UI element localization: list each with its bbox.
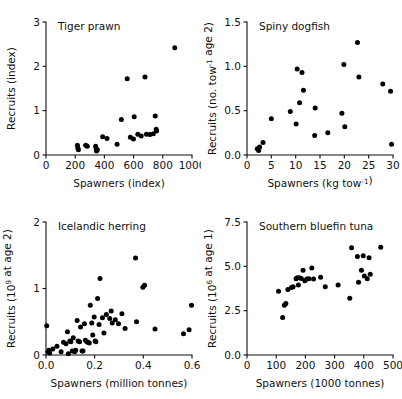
data-point [323,284,328,289]
data-point [336,282,341,287]
data-point [132,114,137,119]
data-point [347,296,352,301]
data-point [88,303,93,308]
data-point [50,347,55,352]
data-point [107,316,112,321]
data-point [97,322,102,327]
data-point [283,301,288,306]
data-point [76,147,81,152]
data-point [104,312,109,317]
data-point [269,116,274,121]
data-point [299,70,304,75]
data-point [368,272,373,277]
data-point [105,136,110,141]
x-tick-label: 10 [289,159,302,171]
data-point [257,145,262,150]
data-point [100,315,105,320]
data-point [291,284,296,289]
x-tick-label: 0.4 [135,359,152,371]
x-axis-title: Spawners (kg tow-1) [267,174,372,189]
data-point [92,315,97,320]
y-axis-title: Recruits (no. tow-1 age 2) [202,22,217,155]
data-point [365,276,370,281]
data-point [125,76,130,81]
y-tick-label: 1 [33,282,40,294]
x-tick-label: 0 [244,159,251,171]
data-point [73,348,78,353]
data-point [142,283,147,288]
y-tick-label: 1 [33,104,40,116]
data-point [261,140,266,145]
data-point [44,323,49,328]
data-point [276,289,281,294]
data-point [389,142,394,147]
axis-spines [247,22,393,155]
x-tick-label: 5 [268,159,275,171]
x-axis-title: Spawners (million tonnes) [51,377,188,389]
data-point [154,129,159,134]
x-axis-title: Spawners (1000 tonnes) [256,377,385,389]
data-point [318,275,323,280]
data-point [325,130,330,135]
data-point [90,333,95,338]
data-point [133,255,138,260]
data-point [87,341,92,346]
panel-spiny-dogfish: 0.00.51.01.5051015202530Spiny dogfishSpa… [201,0,402,199]
data-point [172,45,177,50]
data-point [189,303,194,308]
panel-tiger-prawn: 012302004006008001000Tiger prawnSpawners… [0,0,201,199]
y-tick-label: 0.0 [224,349,241,361]
y-tick-label: 0 [33,149,40,161]
x-tick-label: 30 [386,159,399,171]
x-tick-label: 0.2 [86,359,103,371]
data-point [341,62,346,67]
data-point [123,326,128,331]
data-point [306,276,311,281]
y-axis-title: Recruits (106 at age 1) [202,229,217,348]
data-point [378,245,383,250]
data-point [296,282,301,287]
data-point [355,40,360,45]
data-point [93,339,98,344]
data-point [89,321,94,326]
data-point [116,321,121,326]
x-tick-label: 20 [338,159,351,171]
data-point [361,253,366,258]
data-point [312,133,317,138]
y-axis-title: Recruits (index) [5,47,17,130]
x-tick-label: 800 [153,159,173,171]
x-tick-label: 0 [244,359,251,371]
data-point [65,329,70,334]
data-point-group [276,245,383,320]
x-tick-label: 400 [354,359,374,371]
data-point [301,268,306,273]
data-point [359,268,364,273]
data-point-group [255,40,394,153]
data-point [311,277,316,282]
axis-spines [46,222,192,355]
data-point [98,276,103,281]
x-tick-label: 300 [325,359,345,371]
data-point [342,124,347,129]
data-point [380,82,385,87]
data-point [356,74,361,79]
data-point [349,245,354,250]
data-point [153,327,158,332]
chart-0: 012302004006008001000Tiger prawnSpawners… [0,0,201,199]
chart-2: 0120.00.20.40.6Icelandic herringSpawners… [0,200,201,399]
y-tick-label: 2 [33,60,40,72]
x-tick-label: 0.6 [184,359,201,371]
data-point [101,331,106,336]
chart-3: 0.02.55.07.50100200300400500Southern blu… [201,200,402,399]
data-point [134,319,139,324]
data-point [59,349,64,354]
panel-icelandic-herring: 0120.00.20.40.6Icelandic herringSpawners… [0,200,201,399]
data-point-group [44,255,194,356]
data-point [85,144,90,149]
x-tick-label: 25 [362,159,375,171]
panel-title: Spiny dogfish [259,20,330,32]
data-point [301,88,306,93]
data-point [181,331,186,336]
x-tick-label: 100 [266,359,286,371]
data-point [77,339,82,344]
